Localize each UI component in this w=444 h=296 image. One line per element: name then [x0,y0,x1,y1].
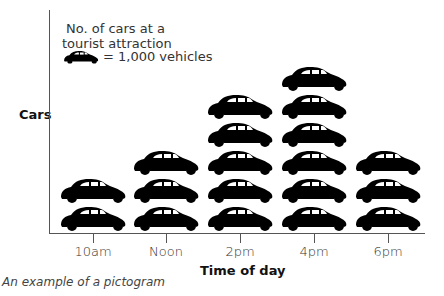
car-icon [280,93,348,120]
car-icon [206,121,274,148]
car-icon [132,205,200,232]
legend-title-line1: No. of cars at a [62,21,212,36]
x-tick [314,234,315,243]
car-icon [206,93,274,120]
car-icon [354,149,422,176]
x-tick-label: 2pm [205,244,275,259]
car-icon [354,177,422,204]
y-axis [49,10,50,234]
x-axis [49,233,425,234]
car-icon [59,205,127,232]
car-icon [59,177,127,204]
legend-title: No. of cars at a tourist attraction [62,21,212,51]
x-tick-label: Noon [131,244,201,259]
legend-value: = 1,000 vehicles [103,49,212,64]
car-icon [280,177,348,204]
car-icon [280,121,348,148]
car-icon [280,205,348,232]
caption: An example of a pictogram [2,275,165,289]
x-tick [166,234,167,243]
x-tick-label: 10am [58,244,128,259]
x-axis-label: Time of day [200,263,285,278]
car-icon [280,65,348,92]
car-icon [206,149,274,176]
y-axis-label: Cars [19,107,51,122]
x-tick [388,234,389,243]
car-icon [63,49,99,65]
car-icon [206,205,274,232]
car-icon [132,149,200,176]
pictogram-chart: No. of cars at a tourist attraction = 1,… [0,0,444,296]
car-icon [132,177,200,204]
x-tick-label: 6pm [353,244,423,259]
x-tick [93,234,94,243]
car-icon [354,205,422,232]
x-tick [240,234,241,243]
car-icon [206,177,274,204]
car-icon [280,149,348,176]
x-tick-label: 4pm [279,244,349,259]
